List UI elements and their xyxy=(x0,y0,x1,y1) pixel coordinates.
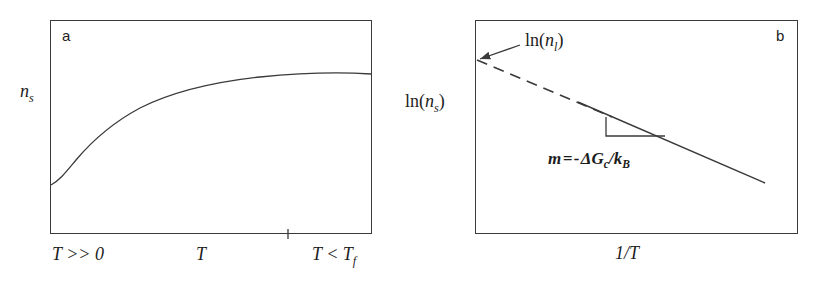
slope-eq-equals: = xyxy=(563,149,573,168)
slope-eq-delta: Δ xyxy=(581,149,592,168)
slope-eq-k-subscript: B xyxy=(622,158,630,171)
panel-b-plot-svg xyxy=(0,0,825,283)
panel-b-slope-equation: m = - ΔGc/kB xyxy=(548,150,630,171)
slope-eq-m: m xyxy=(548,149,561,168)
panel-b-intercept-suffix: ) xyxy=(557,30,563,50)
panel-b-intercept-arrow xyxy=(480,45,520,59)
slope-eq-k: k xyxy=(614,149,623,168)
panel-b-intercept-base: n xyxy=(545,30,554,50)
figure-root: a ns T >> 0 T T < Tf b ln(ns) xyxy=(0,0,825,283)
slope-eq-G: G xyxy=(592,149,604,168)
panel-b-intercept-label: ln(nl) xyxy=(525,31,563,53)
panel-b-x-axis-label: 1/T xyxy=(615,244,639,262)
panel-b-intercept-prefix: ln( xyxy=(525,30,545,50)
panel-b-x-axis-label-text: 1/T xyxy=(615,243,639,263)
